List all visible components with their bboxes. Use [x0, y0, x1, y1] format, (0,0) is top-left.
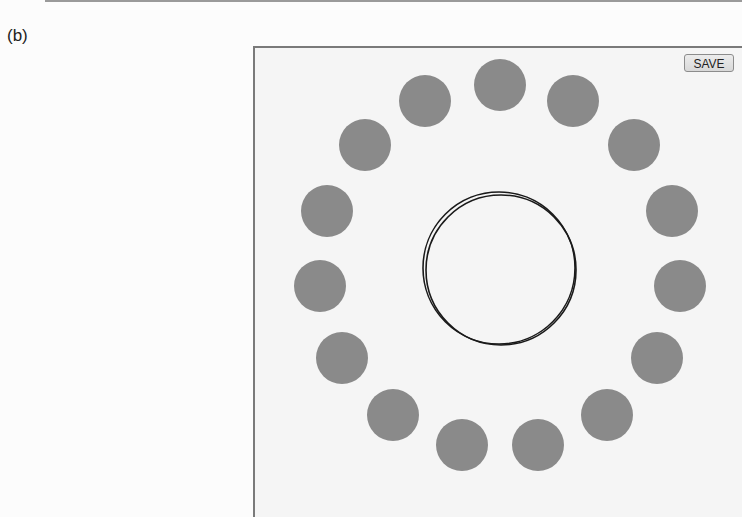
target-dot[interactable]	[608, 119, 660, 171]
target-dot[interactable]	[547, 75, 599, 127]
target-dot[interactable]	[316, 332, 368, 384]
target-dot[interactable]	[301, 185, 353, 237]
target-dot[interactable]	[436, 419, 488, 471]
target-dot[interactable]	[654, 260, 706, 312]
target-dot[interactable]	[646, 185, 698, 237]
target-dot[interactable]	[339, 119, 391, 171]
page: (b) SAVE	[0, 0, 742, 517]
save-button[interactable]: SAVE	[684, 54, 734, 72]
target-dot[interactable]	[474, 59, 526, 111]
target-dot[interactable]	[581, 389, 633, 441]
panel-label: (b)	[7, 26, 28, 46]
target-dot[interactable]	[294, 260, 346, 312]
target-dot[interactable]	[367, 389, 419, 441]
target-dot[interactable]	[512, 419, 564, 471]
divider	[45, 0, 742, 2]
target-dot[interactable]	[399, 75, 451, 127]
target-dot[interactable]	[631, 332, 683, 384]
